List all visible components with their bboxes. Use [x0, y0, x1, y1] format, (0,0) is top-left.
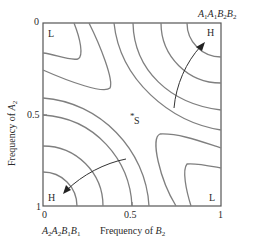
x-axis-title: Frequency of B2	[100, 226, 165, 236]
y-tick-label-1: 1	[36, 202, 41, 212]
y-tick-label-0.5: 0.5	[27, 110, 40, 120]
contour-br-2	[185, 164, 221, 206]
genotype-label-top-right: A1A1B2B2	[198, 9, 236, 19]
saddle-label: S	[134, 116, 140, 126]
arrowhead-bottom-left-icon	[63, 185, 71, 194]
x-tick-label-0: 0	[42, 210, 47, 220]
y-tick-label-0: 0	[34, 17, 39, 27]
corner-label-bottom-left: H	[48, 193, 55, 203]
x-tick-label-0.5: 0.5	[124, 210, 137, 220]
corner-label-top-right: H	[207, 28, 214, 38]
contour-tr-1	[187, 23, 221, 57]
corner-label-top-left: L	[48, 29, 54, 39]
arrow-to-bottom-left-peak	[67, 159, 126, 190]
x-tick-label-1: 1	[218, 210, 223, 220]
y-axis-title: Frequency of A2	[6, 101, 17, 166]
arrow-to-top-right-peak	[174, 46, 201, 108]
corner-label-bottom-right: L	[209, 193, 215, 203]
genotype-label-bottom-left: A2A2B1B1	[42, 226, 80, 236]
